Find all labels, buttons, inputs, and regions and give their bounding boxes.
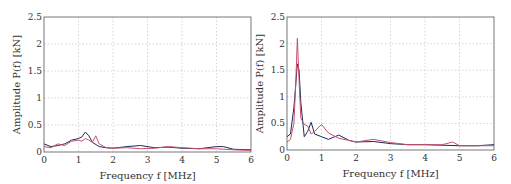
gridlines [287,17,494,150]
x-tick-label: 1 [319,153,325,163]
x-tick-label: 2 [110,155,116,165]
x-axis-label: Frequency f [MHz] [342,168,438,179]
x-tick-label: 2 [353,153,359,163]
chart-left: 012345600.511.522.5Frequency f [MHz]Ampl… [0,0,255,184]
y-axis-label: Amplitude P(f) [kN] [11,35,22,136]
x-tick-label: 0 [284,153,290,163]
x-tick-label: 4 [179,155,185,165]
x-tick-label: 1 [76,155,82,165]
x-tick-label: 5 [214,155,220,165]
y-tick-label: 1 [279,92,285,102]
y-axis-label: Amplitude P(f) [kN] [255,34,265,135]
x-tick-label: 3 [388,153,394,163]
x-tick-label: 0 [41,155,47,165]
x-tick-label: 3 [145,155,151,165]
x-tick-label: 5 [457,153,463,163]
y-tick-label: 1 [36,93,42,103]
gridlines [44,17,251,152]
x-tick-label: 6 [491,153,497,163]
y-tick-label: 2 [279,39,285,49]
x-tick-label: 4 [422,153,428,163]
y-tick-label: 2.5 [271,12,286,22]
y-tick-label: 0 [279,145,285,155]
y-tick-label: 0 [36,147,42,157]
x-tick-label: 6 [248,155,254,165]
y-tick-label: 1.5 [271,65,286,75]
x-axis-label: Frequency f [MHz] [99,170,195,181]
y-tick-label: 1.5 [28,66,43,76]
y-tick-label: 0.5 [271,118,286,128]
y-tick-label: 2 [36,39,42,49]
chart-right: 012345600.511.522.5Frequency f [MHz]Ampl… [255,0,511,184]
y-tick-label: 0.5 [28,120,43,130]
y-tick-label: 2.5 [28,12,43,22]
